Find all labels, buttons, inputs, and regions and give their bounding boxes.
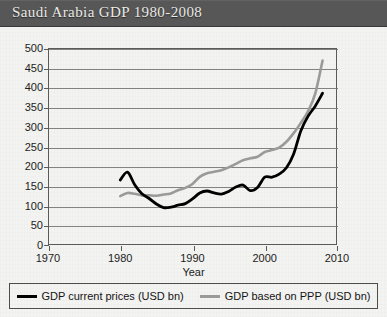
y-tick-label: 50 [13,220,43,231]
legend-label: GDP current prices (USD bn) [42,290,184,302]
y-tick-label: 400 [13,82,43,93]
chart-figure: Saudi Arabia GDP 1980-2008 500 450 400 3… [0,0,387,317]
y-axis-labels: 500 450 400 350 300 250 200 150 100 50 0 [9,48,43,245]
legend-swatch-icon [200,295,220,298]
series-layer [48,48,337,245]
y-tick-label: 0 [13,240,43,251]
y-tick-label: 200 [13,161,43,172]
title-banner: Saudi Arabia GDP 1980-2008 [0,0,387,27]
x-tick-label: 1980 [100,252,140,264]
y-tick-label: 450 [13,63,43,74]
y-tick-label: 150 [13,181,43,192]
y-tick-label: 100 [13,201,43,212]
legend-item-ppp: GDP based on PPP (USD bn) [200,290,371,302]
y-tick-label: 300 [13,122,43,133]
legend-label: GDP based on PPP (USD bn) [225,290,371,302]
x-tick-label: 2010 [317,252,357,264]
x-tick-label: 1990 [173,252,213,264]
legend-item-current-prices: GDP current prices (USD bn) [17,290,184,302]
x-tick-label: 1970 [28,252,68,264]
series-line-current-prices [120,93,322,207]
x-tick [121,246,122,251]
y-tick-label: 500 [13,43,43,54]
x-tick [49,246,50,251]
x-axis-labels: 1970 1980 1990 2000 2010 [0,252,387,266]
series-line-ppp [120,61,322,197]
y-tick-label: 250 [13,142,43,153]
x-tick [337,246,338,251]
chart-title: Saudi Arabia GDP 1980-2008 [12,4,202,21]
x-tick-label: 2000 [245,252,285,264]
x-tick [266,246,267,251]
legend-swatch-icon [17,295,37,298]
y-tick-label: 350 [13,102,43,113]
x-axis-title: Year [0,266,387,278]
chart-legend: GDP current prices (USD bn) GDP based on… [9,283,378,309]
x-tick [194,246,195,251]
